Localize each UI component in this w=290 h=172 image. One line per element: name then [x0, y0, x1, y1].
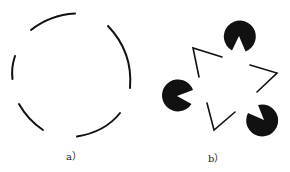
pacman-left — [162, 79, 193, 111]
arc-left — [12, 56, 15, 79]
corner-bottom — [207, 103, 235, 130]
corner-right — [250, 65, 277, 92]
arc-bottom-right — [77, 113, 120, 137]
pacman-top — [224, 21, 256, 52]
arc-bottom-left — [19, 104, 43, 130]
pacman-bottom-right — [246, 104, 278, 136]
corner-top-left — [193, 48, 222, 77]
arc-top — [31, 14, 75, 31]
panel-b-label: b） — [208, 150, 224, 165]
arc-right — [108, 26, 130, 88]
illusion-figure — [0, 0, 290, 172]
panel-b-kanizsa-triangle — [162, 21, 278, 137]
panel-a-broken-circle — [12, 14, 130, 137]
panel-a-label: a） — [66, 148, 82, 163]
